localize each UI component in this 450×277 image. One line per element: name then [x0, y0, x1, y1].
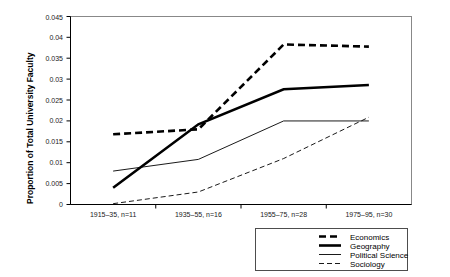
- y-axis-title: Proportion of Total University Faculty: [25, 52, 35, 204]
- y-tick-label-3: 0.015: [45, 138, 63, 145]
- y-tick-label-8: 0.04: [49, 34, 63, 41]
- faculty-proportion-line-chart: Proportion of Total University Faculty 0…: [0, 0, 450, 277]
- legend-label-political-science: Political Science: [350, 251, 409, 260]
- y-tick-label-9: 0.045: [45, 14, 63, 21]
- y-tick-label-6: 0.03: [49, 76, 63, 83]
- x-tick-label-2: 1955–75, n=28: [260, 211, 307, 218]
- legend: Economics Geography Political Science So…: [256, 229, 409, 271]
- y-tick-label-7: 0.035: [45, 55, 63, 62]
- x-tick-label-1: 1935–55, n=16: [175, 211, 222, 218]
- x-tick-label-3: 1975–95, n=30: [345, 211, 392, 218]
- legend-label-economics: Economics: [350, 233, 389, 242]
- legend-label-sociology: Sociology: [350, 260, 385, 269]
- y-tick-label-1: 0.005: [45, 180, 63, 187]
- y-tick-label-0: 0: [59, 201, 63, 208]
- y-tick-label-4: 0.02: [49, 117, 63, 124]
- y-tick-label-5: 0.025: [45, 97, 63, 104]
- legend-label-geography: Geography: [350, 242, 390, 251]
- y-tick-label-2: 0.01: [49, 159, 63, 166]
- x-tick-label-0: 1915–35, n=11: [90, 211, 136, 218]
